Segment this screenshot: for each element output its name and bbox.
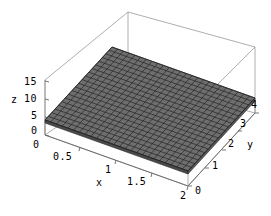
x-axis-tick-0: 0 [33, 140, 39, 150]
surface-plane [45, 47, 255, 174]
x-axis-tick-0-5: 0.5 [53, 152, 72, 162]
y-axis-tick-2: 2 [228, 139, 234, 149]
z-axis-title: z [11, 95, 17, 105]
x-axis-title: x [96, 178, 102, 188]
x-axis-tick-2: 2 [180, 191, 186, 201]
z-axis-tick-5: 5 [31, 111, 37, 121]
y-axis-tick-1: 1 [212, 161, 218, 171]
z-axis-tick-10: 10 [24, 94, 37, 104]
y-axis-title: y [247, 140, 253, 150]
surface-plot-figure: z 15 10 5 0 x 0 0.5 1 1.5 2 y 0 1 2 3 4 [0, 0, 271, 216]
y-axis-tick-3: 3 [240, 119, 246, 129]
x-axis-tick-1-5: 1.5 [127, 177, 146, 187]
y-axis-tick-4: 4 [251, 100, 257, 110]
x-axis-tick-1: 1 [105, 165, 111, 175]
y-axis-tick-0: 0 [195, 186, 201, 196]
z-axis-line [45, 80, 49, 136]
z-axis-tick-0: 0 [31, 126, 37, 136]
z-axis-tick-15: 15 [24, 77, 37, 87]
